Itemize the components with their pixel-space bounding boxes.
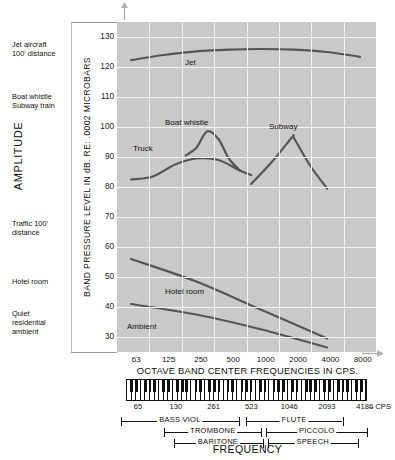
curve-label: Ambient [127, 322, 156, 331]
piano-black-key [176, 380, 179, 392]
piano-keyboard [126, 379, 367, 401]
series-curve [131, 49, 360, 60]
range-end-cap [367, 428, 368, 437]
annotation-line: ambient [12, 327, 74, 336]
piano-black-key [144, 380, 147, 392]
y-tick-label: 100 [74, 122, 114, 131]
series-curve [131, 259, 327, 339]
piano-black-key [199, 380, 202, 392]
amplitude-axis-label: AMPLITUDE [12, 116, 24, 196]
y-tick-label: 60 [74, 242, 114, 251]
y-tick-label: 30 [74, 332, 114, 341]
piano-black-key [149, 380, 152, 392]
y-tick-label: 50 [74, 272, 114, 281]
amplitude-annotation: Jet aircraft100' distance [12, 40, 74, 58]
piano-black-key [305, 380, 308, 392]
piano-black-key [355, 380, 358, 392]
annotation-line: Subway train [12, 101, 74, 110]
range-name-label: PICCOLO [297, 426, 337, 435]
cps-unit-label: – CPS [369, 402, 391, 411]
plot-area: JetTruckBoat whistleSubwayHotel roomAmbi… [117, 22, 376, 352]
piano-black-key [328, 380, 331, 392]
piano-black-key [245, 380, 248, 392]
piano-black-key [213, 380, 216, 392]
curve-label: Truck [133, 144, 153, 153]
y-tick-label: 70 [74, 212, 114, 221]
x-tick-label: 8000 [343, 355, 383, 364]
piano-black-key [185, 380, 188, 392]
piano-black-key [337, 380, 340, 392]
piano-black-key [277, 380, 280, 392]
range-name-label: FLUTE [280, 415, 309, 424]
y-tick-label: 90 [74, 152, 114, 161]
piano-black-key [309, 380, 312, 392]
piano-black-key [346, 380, 349, 392]
keyboard-tick-label: 2093 [307, 402, 347, 411]
piano-black-key [360, 380, 363, 392]
curve-label: Subway [269, 122, 297, 131]
piano-black-key [162, 380, 165, 392]
piano-black-key [291, 380, 294, 392]
annotation-line: distance [12, 228, 74, 237]
annotation-line: 100' distance [12, 49, 74, 58]
top-arrow-icon [120, 2, 129, 20]
amplitude-annotation: Quietresidentialambient [12, 309, 74, 337]
piano-black-key [130, 380, 133, 392]
annotation-line: Hotel room [12, 277, 74, 286]
piano-black-key [227, 380, 230, 392]
annotation-line: Traffic 100' [12, 219, 74, 228]
range-end-cap [246, 417, 247, 426]
annotation-line: Quiet [12, 309, 74, 318]
y-tick-label: 120 [74, 62, 114, 71]
piano-black-key [231, 380, 234, 392]
acoustic-spectrum-chart: AMPLITUDE Jet aircraft100' distanceBoat … [0, 0, 395, 460]
y-tick-label: 130 [74, 32, 114, 41]
range-end-cap [266, 428, 267, 437]
curve-label: Hotel room [165, 287, 204, 296]
piano-black-key [195, 380, 198, 392]
piano-black-key [259, 380, 262, 392]
piano-black-key [273, 380, 276, 392]
keyboard-tick-label: 65 [118, 402, 158, 411]
keyboard-frequency-ticks: 65130261523104620934186 [126, 402, 367, 412]
piano-black-key [167, 380, 170, 392]
piano-black-key [208, 380, 211, 392]
gridline-vertical [344, 22, 345, 352]
gridline-vertical [214, 22, 215, 352]
gridline-vertical [311, 22, 312, 352]
gridline-vertical [182, 22, 183, 352]
piano-black-key [323, 380, 326, 392]
amplitude-annotation: Hotel room [12, 277, 74, 286]
piano-black-key [241, 380, 244, 392]
piano-black-key [342, 380, 345, 392]
y-axis-ticks: 13012011010090807060504030 [72, 22, 114, 352]
piano-black-key [181, 380, 184, 392]
piano-black-key [296, 380, 299, 392]
y-tick-label: 40 [74, 302, 114, 311]
plot-frame-bottom-rule [71, 352, 117, 353]
piano-black-key [282, 380, 285, 392]
keyboard-tick-label: 261 [194, 402, 234, 411]
keyboard-tick-label: 523 [231, 402, 271, 411]
piano-black-key [153, 380, 156, 392]
series-curve [186, 131, 240, 170]
frequency-axis-title: FREQUENCY [110, 443, 385, 455]
amplitude-annotation: Boat whistleSubway train [12, 92, 74, 110]
annotation-line: residential [12, 318, 74, 327]
piano-black-key [264, 380, 267, 392]
y-tick-label: 110 [74, 92, 114, 101]
annotation-line: Boat whistle [12, 92, 74, 101]
y-tick-label: 80 [74, 182, 114, 191]
gridline-vertical [279, 22, 280, 352]
piano-black-key [314, 380, 317, 392]
amplitude-annotation: Traffic 100'distance [12, 219, 74, 237]
x-axis-title: OCTAVE BAND CENTER FREQUENCIES IN CPS. [110, 365, 385, 376]
curve-label: Jet [185, 58, 196, 67]
piano-black-key [218, 380, 221, 392]
keyboard-tick-label: 1046 [269, 402, 309, 411]
curve-label: Boat whistle [165, 118, 208, 127]
annotation-line: Jet aircraft [12, 40, 74, 49]
piano-black-key [250, 380, 253, 392]
range-end-cap [343, 417, 344, 426]
piano-black-key [135, 380, 138, 392]
